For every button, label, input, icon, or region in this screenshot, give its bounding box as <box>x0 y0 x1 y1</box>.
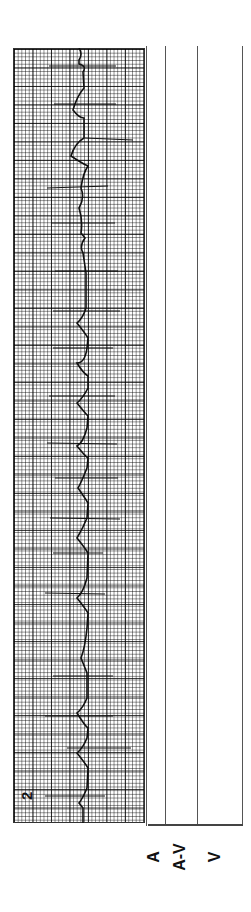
strip-number: 2 <box>18 792 35 800</box>
ladder-label-av: A-V <box>171 843 189 871</box>
ladder-divider-a <box>165 46 166 826</box>
ladder-label-v: V <box>206 852 224 863</box>
ladder-border-right <box>242 46 243 826</box>
ladder-divider-av <box>197 46 198 826</box>
ladder-label-a: A <box>145 851 163 863</box>
ladder-bottom-border <box>148 824 243 826</box>
ladder-border-left <box>146 46 147 826</box>
ecg-trace <box>13 48 145 823</box>
